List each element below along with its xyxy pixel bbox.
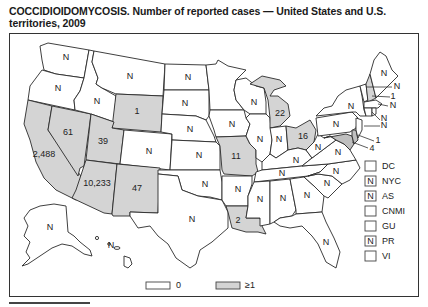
state-ny[interactable]: [316, 86, 366, 116]
label-tx: N: [189, 214, 196, 224]
label-ga: N: [304, 190, 311, 200]
legend-zero: 0: [146, 280, 181, 290]
label-fl: N: [323, 237, 330, 247]
label-ne: N: [187, 124, 194, 134]
svg-text:AS: AS: [382, 191, 394, 201]
svg-text:VI: VI: [382, 251, 391, 261]
label-ak: N: [47, 222, 54, 232]
territory-nyc: N NYC: [365, 176, 402, 186]
label-mi: 22: [275, 108, 285, 118]
label-co: N: [146, 146, 153, 156]
label-vt: N: [394, 81, 401, 91]
territory-cnmi: CNMI: [365, 206, 405, 216]
svg-text:PR: PR: [382, 236, 395, 246]
label-wy: 1: [134, 106, 139, 116]
svg-text:N: N: [367, 176, 374, 186]
label-ok: N: [202, 179, 209, 189]
label-ct-nj: N: [381, 120, 388, 130]
territory-pr: N PR: [365, 236, 395, 246]
svg-text:N: N: [367, 236, 374, 246]
label-id: N: [94, 96, 101, 106]
label-al: N: [280, 193, 287, 203]
label-ky: N: [293, 155, 300, 165]
svg-text:N: N: [367, 191, 374, 201]
territory-dc: DC: [365, 161, 395, 171]
territory-gu: GU: [365, 221, 396, 231]
svg-text:CNMI: CNMI: [382, 206, 405, 216]
label-nd: N: [185, 72, 192, 82]
label-nv: 61: [63, 127, 73, 137]
label-wv: N: [315, 142, 322, 152]
svg-text:DC: DC: [382, 161, 395, 171]
label-md: 4: [369, 143, 374, 153]
label-ut: 39: [98, 136, 108, 146]
label-me: N: [381, 68, 388, 78]
label-nc: N: [333, 166, 340, 176]
label-la: 2: [235, 215, 240, 225]
label-sd: N: [182, 98, 189, 108]
svg-text:GU: GU: [382, 221, 396, 231]
label-nm: 47: [132, 183, 142, 193]
label-ar: N: [235, 184, 242, 194]
label-in: N: [276, 134, 283, 144]
state-fl[interactable]: [274, 212, 340, 268]
svg-text:NYC: NYC: [382, 176, 402, 186]
territory-as: N AS: [365, 191, 394, 201]
label-ks: N: [196, 150, 203, 160]
label-wi: N: [251, 97, 258, 107]
svg-text:0: 0: [176, 280, 181, 290]
label-va: N: [335, 147, 342, 157]
label-ny: N: [348, 101, 355, 111]
label-mt: N: [127, 71, 134, 81]
label-ia: N: [229, 119, 236, 129]
label-sc: N: [324, 178, 331, 188]
state-ak[interactable]: [22, 204, 92, 266]
label-hi: N: [108, 240, 115, 250]
label-de: 1: [375, 135, 380, 145]
state-ri[interactable]: [372, 108, 376, 116]
label-ca: 2,488: [33, 149, 56, 159]
label-pa: N: [333, 119, 340, 129]
label-il: N: [257, 134, 264, 144]
territory-vi: VI: [365, 251, 391, 261]
label-ms: N: [257, 194, 264, 204]
label-mo: 11: [231, 151, 240, 161]
label-oh: 16: [298, 131, 308, 141]
legend-one-plus: ≥1: [216, 280, 255, 290]
label-ma: N: [390, 100, 397, 110]
svg-text:≥1: ≥1: [245, 280, 255, 290]
label-or: N: [55, 83, 62, 93]
label-tn: N: [279, 168, 286, 178]
label-wa: N: [63, 52, 70, 62]
label-az: 10,233: [83, 178, 111, 188]
us-map: N N 2,488 61 N N 1 39 10,233 N 47 N N N …: [0, 0, 428, 307]
